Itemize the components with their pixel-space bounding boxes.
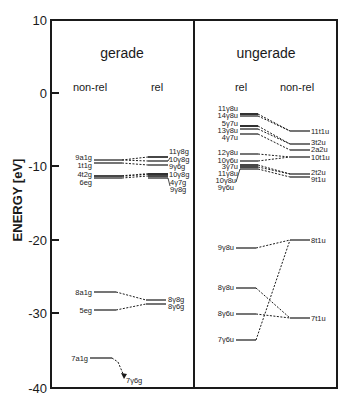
y-tick-label: -20 xyxy=(28,233,47,248)
column-header: rel xyxy=(151,81,163,93)
level-label: 9t1u xyxy=(311,175,326,184)
gerade-nonrel-labels: 9a1g 1t1g 4t2g 6eg 8a1g 5eg 7a1g xyxy=(71,153,92,363)
level-label: 8γ8u xyxy=(218,283,234,292)
ungerade-levels xyxy=(236,114,310,340)
level-label: 7γ6g xyxy=(126,376,142,385)
gerade-levels xyxy=(90,157,170,379)
level-label: 8γ6u xyxy=(218,309,234,318)
level-label: 9γ6u xyxy=(218,183,234,192)
level-label: 11t1u xyxy=(311,127,329,136)
level-label: 8γ6g xyxy=(168,302,184,311)
y-tick-label: 0 xyxy=(40,86,47,101)
gerade-rel-labels: 11γ8g 10γ8g 9γ6g 10γ8g 4γ7g 9γ8g 8γ8g 8γ… xyxy=(126,147,189,385)
level-label: 5eg xyxy=(79,306,92,315)
level-label: 10t1u xyxy=(311,153,330,162)
y-tick-label: -40 xyxy=(28,381,47,396)
level-label: 8a1g xyxy=(75,288,92,297)
level-label: 8t1u xyxy=(311,236,326,245)
column-header: non-rel xyxy=(73,81,107,93)
plot-frame xyxy=(51,20,337,388)
column-header: non-rel xyxy=(280,81,314,93)
panel-title-ungerade: ungerade xyxy=(236,45,295,61)
y-axis xyxy=(51,93,59,313)
ungerade-nonrel-labels: 11t1u 3t2u 2a2u 10t1u 2t2u 9t1u 8t1u 7t1… xyxy=(311,127,330,323)
ungerade-rel-labels: 11γ8u 14γ8u 5γ7u 13γ8u 4γ7u 12γ8u 10γ6u … xyxy=(216,104,238,344)
y-tick-labels: 10 0 -10 -20 -30 -40 xyxy=(28,13,47,396)
level-label: 7a1g xyxy=(71,354,88,363)
level-label: 4γ7u xyxy=(222,133,238,142)
panel-title-gerade: gerade xyxy=(100,45,144,61)
y-tick-label: 10 xyxy=(33,13,47,28)
level-label: 9γ8g xyxy=(170,185,186,194)
column-header: rel xyxy=(235,81,247,93)
y-tick-label: -10 xyxy=(28,159,47,174)
level-label: 9γ8u xyxy=(218,243,234,252)
level-label: 7t1u xyxy=(311,314,326,323)
y-axis-label: ENERGY [eV] xyxy=(10,159,25,242)
level-label: 7γ6u xyxy=(218,335,234,344)
energy-level-diagram: 10 0 -10 -20 -30 -40 ENERGY [eV] gerade … xyxy=(0,0,352,404)
y-tick-label: -30 xyxy=(28,306,47,321)
level-label: 6eg xyxy=(79,178,92,187)
level-label: 1t1g xyxy=(77,161,92,170)
